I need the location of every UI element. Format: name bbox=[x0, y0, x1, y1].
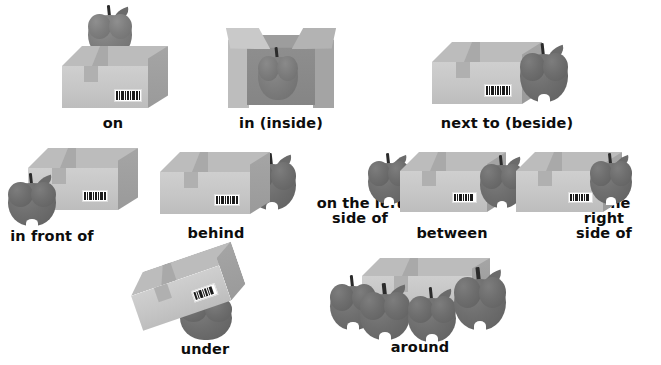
apple-notch bbox=[426, 334, 438, 343]
apple-body bbox=[258, 57, 298, 100]
open-box-right-flap bbox=[292, 28, 337, 49]
barcode-icon bbox=[214, 194, 240, 206]
apple-notch bbox=[26, 219, 38, 227]
label-between: between bbox=[416, 226, 487, 241]
barcode-icon bbox=[484, 84, 512, 97]
box-tape-front bbox=[84, 66, 98, 82]
label-behind: behind bbox=[188, 226, 245, 241]
prepositions-chart: on in (inside) bbox=[0, 0, 661, 365]
box-tape-front bbox=[538, 171, 552, 186]
illustration-on bbox=[62, 6, 177, 111]
apple-icon bbox=[590, 154, 632, 204]
barcode-icon bbox=[114, 89, 142, 102]
barcode-icon bbox=[82, 190, 108, 202]
apple-notch bbox=[538, 94, 550, 103]
label-in-front-of: in front of bbox=[10, 229, 93, 244]
label-next-to: next to (beside) bbox=[441, 116, 573, 131]
barcode-icon bbox=[452, 192, 477, 203]
box-icon bbox=[160, 152, 270, 222]
box-icon bbox=[62, 46, 168, 114]
box-tape-front bbox=[456, 62, 470, 78]
illustration-under bbox=[132, 258, 272, 340]
apple-notch bbox=[379, 332, 391, 341]
illustration-in bbox=[228, 28, 334, 110]
illustration-around bbox=[330, 258, 520, 338]
label-around: around bbox=[391, 340, 450, 355]
apple-icon bbox=[454, 268, 506, 330]
label-on: on bbox=[103, 116, 124, 131]
box-tape-front bbox=[422, 171, 436, 186]
box-front-face bbox=[432, 62, 522, 104]
apple-icon bbox=[408, 288, 456, 342]
apple-notch bbox=[474, 321, 486, 331]
open-box-right-wall bbox=[313, 39, 334, 108]
apple-notch bbox=[384, 197, 394, 205]
illustration-next-to bbox=[432, 30, 592, 112]
box-front-face bbox=[160, 172, 250, 214]
illustration-between-group bbox=[368, 150, 630, 222]
apple-notch bbox=[606, 197, 616, 205]
label-under: under bbox=[181, 342, 230, 357]
apple-notch bbox=[497, 201, 508, 209]
apple-icon bbox=[360, 284, 410, 340]
apple-icon bbox=[258, 48, 298, 100]
open-box-left-flap bbox=[226, 28, 271, 49]
open-box-left-wall bbox=[228, 39, 249, 108]
apple-icon bbox=[8, 174, 56, 226]
box-tape-front bbox=[184, 172, 198, 188]
label-in: in (inside) bbox=[239, 116, 323, 131]
apple-icon bbox=[520, 44, 568, 102]
apple-notch bbox=[347, 322, 358, 331]
illustration-in-front-of bbox=[8, 148, 138, 226]
illustration-behind bbox=[160, 148, 300, 220]
